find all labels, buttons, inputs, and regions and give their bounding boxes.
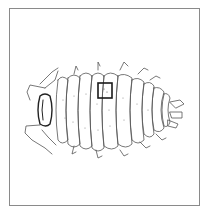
antenna-left-top [27, 85, 45, 100]
highlight-box [98, 83, 112, 98]
antenna-left-bottom [25, 125, 52, 154]
isopod-illustration [0, 0, 209, 221]
body-speckles [63, 94, 149, 131]
head [38, 94, 52, 126]
